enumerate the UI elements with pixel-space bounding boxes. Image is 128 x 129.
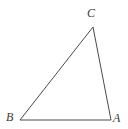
triangle-shape <box>20 27 111 120</box>
vertex-label-b: B <box>6 111 13 123</box>
triangle-drawing <box>0 0 128 129</box>
triangle-figure: C B A <box>0 0 128 129</box>
vertex-label-c: C <box>87 7 95 19</box>
vertex-label-a: A <box>113 112 120 124</box>
